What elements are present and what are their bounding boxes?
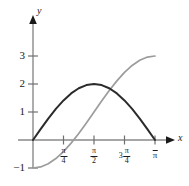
x-tick-label-pi-over-2: π 2 — [91, 147, 98, 165]
chart-figure: y x 3 2 1 −1 π 4 π 2 3 π 4 π — [0, 0, 189, 186]
y-axis-arrowhead — [29, 15, 37, 24]
y-tick-label-2: 2 — [10, 78, 25, 89]
y-tick-label-1: 1 — [10, 106, 25, 117]
x-tick-label-3pi-over-4: 3 π 4 — [119, 147, 131, 165]
y-axis-label: y — [37, 6, 41, 16]
fraction-denominator: 4 — [124, 157, 130, 165]
x-tick-label-pi-over-4: π 4 — [60, 147, 67, 165]
fraction-denominator: 2 — [91, 157, 97, 165]
x-tick-label-pi: π — [153, 150, 158, 160]
x-axis-label: x — [178, 133, 182, 143]
y-tick-label-3: 3 — [10, 50, 25, 61]
x-axis-arrowhead — [166, 136, 175, 144]
fraction-coefficient: 3 — [119, 151, 123, 160]
fraction-numerator: π — [60, 147, 66, 155]
fraction-denominator: 4 — [61, 157, 67, 165]
fraction-pi-over-4: π 4 — [123, 147, 130, 165]
fraction-numerator: π — [91, 147, 97, 155]
pi-symbol: π — [153, 150, 158, 160]
fraction-numerator: π — [124, 147, 130, 155]
fraction-pi-over-4: π 4 — [60, 147, 67, 165]
fraction-pi-over-2: π 2 — [91, 147, 98, 165]
y-tick-label-neg1: −1 — [6, 162, 25, 173]
